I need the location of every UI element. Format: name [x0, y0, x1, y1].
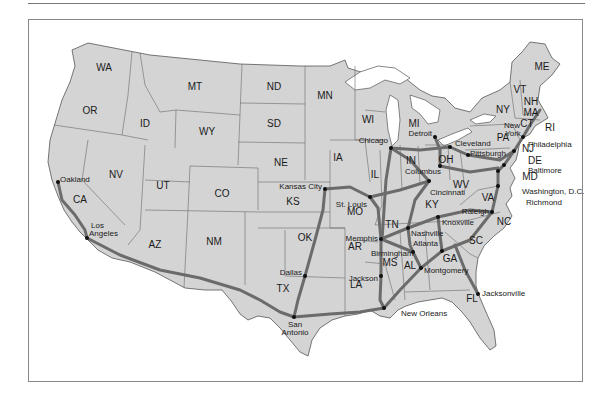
state-label-mt: MT: [188, 81, 202, 92]
state-label-or: OR: [83, 105, 98, 116]
state-label-ia: IA: [333, 152, 343, 163]
state-label-ny: NY: [496, 104, 510, 115]
state-label-ct: CT: [520, 118, 533, 129]
city-label: Pittsburgh: [470, 149, 506, 158]
city-marker: [433, 135, 437, 139]
city-label: Oakland: [60, 175, 90, 184]
state-label-wy: WY: [199, 126, 215, 137]
state-label-vt: VT: [514, 84, 527, 95]
city-marker: [382, 306, 386, 310]
city-marker: [512, 149, 516, 153]
city-label: Dallas: [280, 268, 302, 277]
state-label-nc: NC: [497, 216, 511, 227]
city-marker: [379, 237, 383, 241]
city-marker: [292, 315, 296, 319]
city-label: York: [505, 129, 522, 138]
city-label: Baltimore: [528, 166, 562, 175]
us-map: WAORIDMTWYNDSDNEMNWIIAILMIINOHNVUTCOKSMO…: [0, 0, 610, 402]
state-label-il: IL: [371, 169, 380, 180]
city-label: Raleigh: [462, 207, 489, 216]
state-label-ks: KS: [286, 196, 300, 207]
city-marker: [419, 266, 423, 270]
city-label: St. Louis: [336, 200, 367, 209]
city-marker: [406, 226, 410, 230]
city-marker: [436, 215, 440, 219]
state-label-nh: NH: [524, 96, 538, 107]
state-label-in: IN: [406, 155, 416, 166]
state-label-wi: WI: [362, 114, 374, 125]
city-label: Antonio: [281, 328, 309, 337]
state-label-mi: MI: [408, 118, 419, 129]
city-label: New Orleans: [401, 309, 447, 318]
city-marker: [502, 163, 506, 167]
city-label: Atlanta: [413, 239, 438, 248]
city-label: Columbus: [405, 167, 441, 176]
city-label: Richmond: [526, 198, 562, 207]
city-label: Jackson: [349, 274, 378, 283]
state-label-ne: NE: [274, 157, 288, 168]
state-label-sd: SD: [267, 118, 281, 129]
state-label-ri: RI: [545, 122, 555, 133]
state-label-sc: SC: [469, 235, 483, 246]
city-label: Kansas City: [279, 182, 322, 191]
state-label-tx: TX: [277, 283, 290, 294]
city-marker: [490, 210, 494, 214]
state-label-ms: MS: [383, 257, 398, 268]
city-marker: [379, 274, 383, 278]
state-label-de: DE: [528, 155, 542, 166]
city-label: Birmingham: [371, 249, 414, 258]
state-label-ut: UT: [156, 180, 169, 191]
state-label-ky: KY: [425, 199, 439, 210]
state-label-oh: OH: [439, 154, 454, 165]
state-label-ma: MA: [524, 107, 539, 118]
state-label-me: ME: [535, 61, 550, 72]
state-label-nd: ND: [267, 81, 281, 92]
state-label-co: CO: [215, 188, 230, 199]
state-label-ga: GA: [443, 253, 458, 264]
city-label: Cleveland: [455, 139, 491, 148]
city-marker: [496, 184, 500, 188]
city-marker: [368, 195, 372, 199]
city-marker: [496, 169, 500, 173]
city-marker: [303, 274, 307, 278]
city-marker: [427, 179, 431, 183]
state-label-va: VA: [482, 192, 495, 203]
state-label-mn: MN: [317, 90, 333, 101]
state-label-al: AL: [404, 260, 417, 271]
state-label-fl: FL: [466, 293, 478, 304]
state-label-nv: NV: [109, 169, 123, 180]
city-marker: [323, 187, 327, 191]
city-label: Washington, D.C.: [522, 187, 584, 196]
state-label-ca: CA: [73, 194, 87, 205]
state-label-nm: NM: [206, 236, 222, 247]
city-label: Knoxville: [442, 218, 475, 227]
state-label-tn: TN: [385, 219, 398, 230]
city-marker: [448, 145, 452, 149]
city-label: Memphis: [346, 234, 378, 243]
city-label: Angeles: [89, 229, 118, 238]
state-label-az: AZ: [149, 239, 162, 250]
city-marker: [389, 146, 393, 150]
city-label: Nashville: [411, 229, 444, 238]
city-label: Chicago: [359, 136, 389, 145]
city-label: Jacksonville: [482, 289, 526, 298]
state-label-id: ID: [140, 118, 150, 129]
state-label-wa: WA: [96, 62, 112, 73]
city-label: Detroit: [408, 129, 432, 138]
city-label: Montgomery: [424, 266, 468, 275]
city-label: Cincinnati: [430, 188, 465, 197]
city-label: Philadelphia: [528, 140, 572, 149]
city-marker: [521, 135, 525, 139]
state-label-ok: OK: [298, 232, 313, 243]
